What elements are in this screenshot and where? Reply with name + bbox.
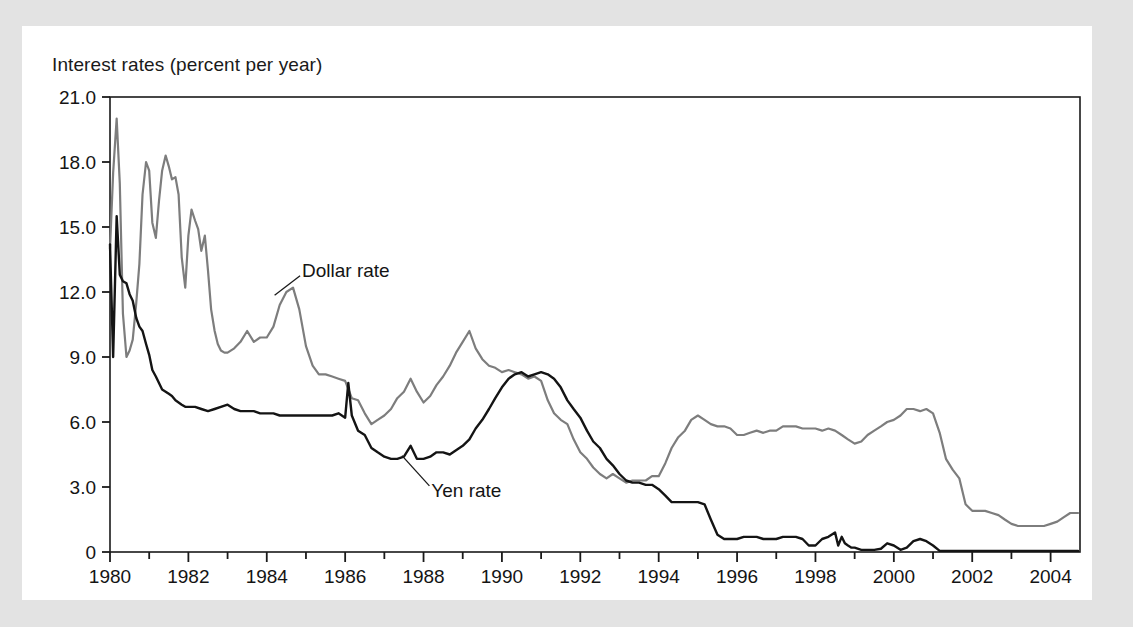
y-axis-tick-label: 6.0: [70, 412, 96, 433]
y-axis-tick-label: 3.0: [70, 477, 96, 498]
x-axis-tick-label: 1986: [324, 566, 366, 587]
figure-card: Interest rates (percent per year) 03.06.…: [22, 26, 1092, 600]
y-axis-tick-label: 21.0: [59, 87, 96, 108]
line-chart: 03.06.09.012.015.018.021.019801982198419…: [22, 26, 1092, 600]
x-axis-tick-label: 1988: [402, 566, 444, 587]
x-axis-tick-label: 1998: [794, 566, 836, 587]
plot-area: 03.06.09.012.015.018.021.019801982198419…: [22, 26, 1092, 600]
x-axis-tick-label: 1980: [89, 566, 131, 587]
x-axis-tick-label: 2000: [873, 566, 915, 587]
series-line-dollar-rate: [110, 119, 1078, 526]
x-axis-tick-label: 1990: [481, 566, 523, 587]
annotation-label: Yen rate: [431, 480, 501, 501]
y-axis-tick-label: 18.0: [59, 152, 96, 173]
x-axis-tick-label: 1994: [638, 566, 681, 587]
x-axis-tick-label: 1996: [716, 566, 758, 587]
figure-root: Interest rates (percent per year) 03.06.…: [0, 0, 1133, 627]
x-axis-tick-label: 1984: [246, 566, 289, 587]
y-axis-tick-label: 0: [85, 542, 96, 563]
x-axis-tick-label: 1982: [167, 566, 209, 587]
y-axis-tick-label: 15.0: [59, 217, 96, 238]
y-axis-tick-label: 9.0: [70, 347, 96, 368]
annotation-leader-line: [402, 456, 429, 486]
y-axis-tick-label: 12.0: [59, 282, 96, 303]
series-line-yen-rate: [110, 216, 1078, 551]
annotation-label: Dollar rate: [302, 260, 390, 281]
x-axis-tick-label: 2002: [951, 566, 993, 587]
x-axis-tick-label: 1992: [559, 566, 601, 587]
x-axis-tick-label: 2004: [1029, 566, 1072, 587]
plot-frame: [110, 97, 1080, 552]
